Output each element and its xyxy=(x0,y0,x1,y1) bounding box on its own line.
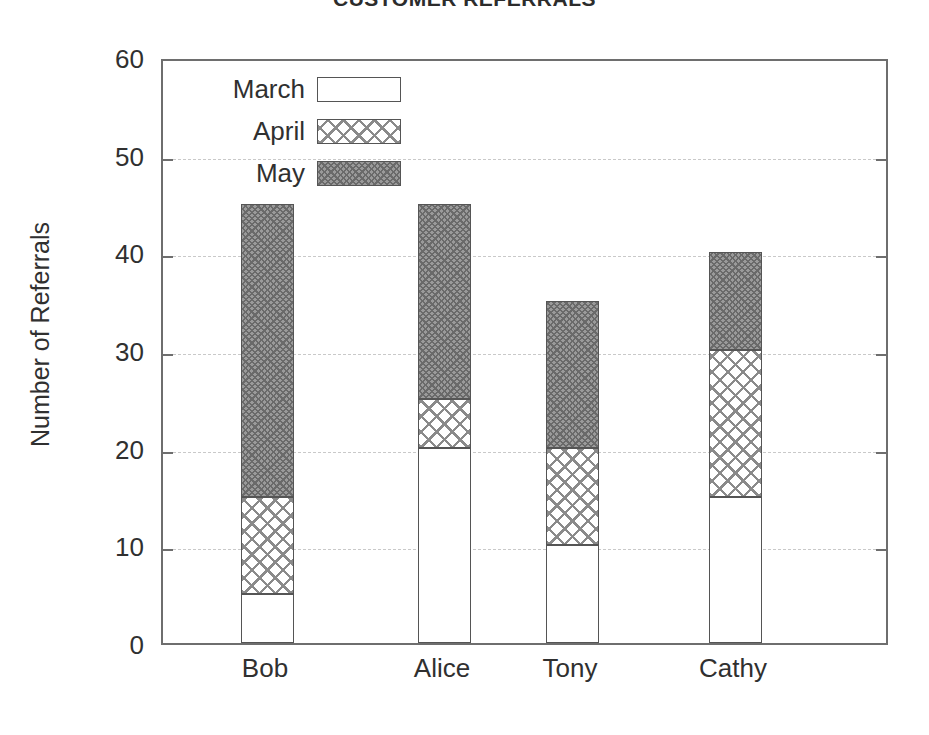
bar-segment-cathy-may xyxy=(709,252,762,350)
bar-segment-tony-april xyxy=(546,448,599,546)
tick-mark xyxy=(162,354,173,356)
bar-segment-tony-march xyxy=(546,545,599,643)
legend-swatch-april xyxy=(317,119,401,144)
tick-mark xyxy=(162,452,173,454)
y-tick-label: 40 xyxy=(86,241,144,267)
tick-mark xyxy=(876,354,887,356)
legend-swatch-may xyxy=(317,161,401,186)
plot-area: MarchAprilMay xyxy=(161,59,888,645)
legend-item-april: April xyxy=(177,113,401,149)
bar-segment-cathy-april xyxy=(709,350,762,497)
bar-group-cathy xyxy=(709,57,762,643)
tick-mark xyxy=(876,256,887,258)
bar-segment-bob-march xyxy=(241,594,294,643)
y-tick-label: 50 xyxy=(86,144,144,170)
x-tick-label-cathy: Cathy xyxy=(653,655,813,681)
bar-segment-bob-april xyxy=(241,497,294,595)
tick-mark xyxy=(876,452,887,454)
tick-mark xyxy=(876,549,887,551)
legend-label: March xyxy=(233,76,305,102)
y-tick-label: 30 xyxy=(86,339,144,365)
tick-mark xyxy=(876,159,887,161)
legend-label: April xyxy=(253,118,305,144)
y-tick-label: 60 xyxy=(86,46,144,72)
bar-segment-alice-march xyxy=(418,448,471,643)
tick-mark xyxy=(162,159,173,161)
y-tick-label: 20 xyxy=(86,437,144,463)
tick-mark xyxy=(162,549,173,551)
bar-segment-bob-may xyxy=(241,204,294,497)
x-tick-label-tony: Tony xyxy=(490,655,650,681)
legend-label: May xyxy=(256,160,305,186)
bar-segment-tony-may xyxy=(546,301,599,448)
y-axis-tick-labels: 0102030405060 xyxy=(86,59,144,645)
chart-legend: MarchAprilMay xyxy=(177,71,401,197)
legend-swatch-march xyxy=(317,77,401,102)
bar-segment-alice-april xyxy=(418,399,471,448)
chart-title: CUSTOMER REFERRALS xyxy=(0,0,929,11)
legend-item-may: May xyxy=(177,155,401,191)
tick-mark xyxy=(162,256,173,258)
bar-group-alice xyxy=(418,57,471,643)
bar-segment-cathy-march xyxy=(709,497,762,644)
legend-item-march: March xyxy=(177,71,401,107)
x-tick-label-bob: Bob xyxy=(185,655,345,681)
bar-segment-alice-may xyxy=(418,204,471,399)
y-axis-title: Number of Referrals xyxy=(26,155,55,515)
bar-group-tony xyxy=(546,57,599,643)
y-tick-label: 10 xyxy=(86,534,144,560)
y-tick-label: 0 xyxy=(86,632,144,658)
x-axis-tick-labels: BobAliceTonyCathy xyxy=(161,655,888,695)
